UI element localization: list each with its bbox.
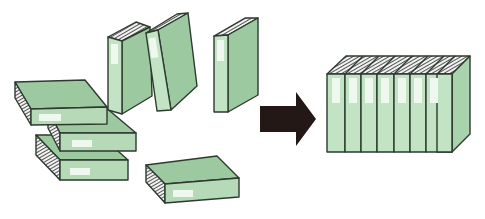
arrow-right-icon <box>260 92 316 146</box>
upright-binder-1 <box>108 22 152 114</box>
flat-binder-1 <box>15 80 107 125</box>
diagram-canvas: Scattered binders being organized into a… <box>0 0 485 219</box>
organized-binders <box>327 56 470 152</box>
upright-binder-2 <box>146 13 197 111</box>
upright-binder-3 <box>214 18 258 112</box>
flat-binder-4 <box>146 156 239 203</box>
